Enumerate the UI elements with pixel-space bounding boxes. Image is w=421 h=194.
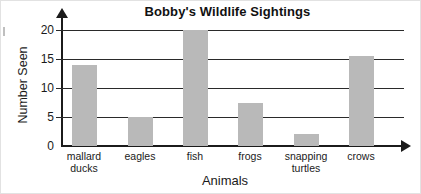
x-tick-label-fish: fish <box>164 150 226 162</box>
bar-frogs <box>238 103 263 147</box>
y-tick-15 <box>56 59 68 60</box>
y-tick-label-20: 20 <box>26 23 54 37</box>
y-axis-line <box>61 16 63 147</box>
x-tick-label-mallard-ducks: mallardducks <box>53 150 115 174</box>
y-tick-label-10: 10 <box>26 81 54 95</box>
x-tick-label-crows: crows <box>330 150 392 162</box>
x-axis-title: Animals <box>140 173 310 188</box>
y-tick-label-5: 5 <box>26 110 54 124</box>
gridline-20 <box>62 30 404 31</box>
bar-eagles <box>128 117 153 146</box>
y-tick-5 <box>56 117 68 118</box>
plot-area: 20 15 10 5 0 Number Seen mallardducks ea… <box>0 0 421 194</box>
y-axis-title: Number Seen <box>16 30 30 140</box>
bar-crows <box>349 56 374 146</box>
x-tick-label-eagles: eagles <box>109 150 171 162</box>
y-tick-label-0: 0 <box>26 139 54 153</box>
x-tick-label-snapping-turtles: snappingturtles <box>275 150 337 174</box>
bar-snapping-turtles <box>294 134 319 146</box>
y-tick-10 <box>56 88 68 89</box>
x-tick-label-frogs: frogs <box>219 150 281 162</box>
chart-page: Bobby's Wildlife Sightings 20 15 10 5 0 … <box>0 0 421 194</box>
y-axis-arrow-icon <box>56 8 68 18</box>
bar-mallard-ducks <box>72 65 97 146</box>
bar-fish <box>183 30 208 146</box>
x-axis-arrow-icon <box>401 140 411 152</box>
y-tick-20 <box>56 30 68 31</box>
y-tick-label-15: 15 <box>26 52 54 66</box>
